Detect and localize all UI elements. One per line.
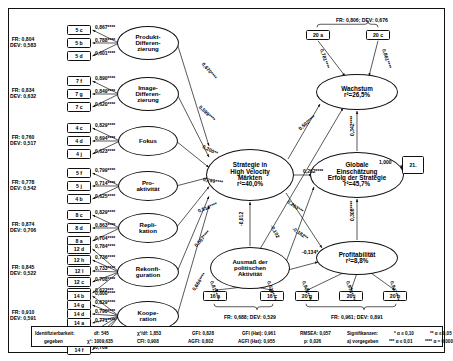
indicator-box-5d: 5 d — [67, 51, 91, 61]
indicator-label: 5 b — [75, 40, 83, 46]
stat-chi2df: χ²/df: 1,853 — [137, 330, 161, 337]
indicator-box-12l: 12 l — [67, 266, 91, 276]
construct-profitabilitaet: Profitabilitätr²=8,8% — [316, 241, 398, 275]
indicator-label: 4 b — [75, 196, 83, 202]
indicator-label: 12 h — [74, 257, 84, 263]
indicator-label: 16 c — [267, 293, 277, 299]
construct-label-fokus: Fokus — [139, 138, 157, 144]
stat-p: p: 0,026 — [304, 338, 321, 345]
indicator-box-5f: 5 f — [67, 168, 91, 178]
indicator-label: 8 c — [75, 212, 82, 218]
indicator-label: 20 a — [313, 32, 323, 38]
indicator-label: 5 c — [75, 27, 82, 33]
indicator-box-12h: 12 h — [67, 255, 91, 265]
stat-gfi: GFI: 0,828 — [192, 330, 214, 337]
indicator-label: 14 d — [74, 311, 84, 317]
construct-label-produkt: Produkt-Differen-zierung — [135, 34, 160, 53]
indicator-box-7c: 7 c — [67, 102, 91, 112]
stat-alpha-010: * α ≤ 0,10 — [394, 330, 414, 337]
indicator-label: 21. — [409, 162, 416, 168]
construct-label-wachstum: Wachstumr²=26,5% — [341, 86, 373, 99]
indicator-label: 20 h — [390, 293, 400, 299]
stat-identifizierbarkeit-2: gegeben — [44, 338, 63, 345]
indicator-box-12c: 12 c — [67, 277, 91, 287]
indicator-label: 8 d — [75, 225, 83, 231]
indicator-label: 20 c — [373, 32, 383, 38]
stat-vorgegeben: a) vorgegeben — [347, 338, 378, 345]
indicator-box-20g: 20 g — [295, 291, 319, 301]
stat-cfi: CFI: 0,908 — [137, 338, 159, 345]
indicator-box-7g: 7 g — [67, 89, 91, 99]
indicator-box-20h: 20 h — [383, 291, 407, 301]
construct-image: Image-Differen-zierung — [117, 77, 179, 111]
construct-proaktivitaet: Pro-aktivität — [118, 171, 178, 201]
construct-label-image: Image-Differen-zierung — [135, 85, 160, 104]
construct-global: GlobaleEinschätzungErfolg der Strategier… — [310, 152, 404, 198]
indicator-box-8c: 8 c — [67, 210, 91, 220]
construct-wachstum: Wachstumr²=26,5% — [316, 74, 398, 110]
indicator-label: 12 l — [75, 268, 84, 274]
indicator-box-16a: 16 a — [203, 291, 227, 301]
stat-alpha-0000: **** α = 0,000 — [425, 338, 453, 345]
indicator-label: 14 b — [74, 293, 84, 299]
stat-signifikanzen: Signifikanzen: — [347, 330, 378, 337]
indicator-box-12d: 12 d — [67, 244, 91, 254]
indicator-box-20c: 20 c — [366, 30, 390, 40]
indicator-label: 5 d — [75, 53, 83, 59]
indicator-label: 16 a — [210, 293, 220, 299]
sem-path-diagram: Produkt-Differen-zierungImage-Differen-z… — [0, 0, 453, 361]
construct-label-global: GlobaleEinschätzungErfolg der Strategier… — [328, 162, 386, 188]
construct-replikation: Repli-kation — [118, 213, 178, 243]
construct-label-proaktivitaet: Pro-aktivität — [136, 180, 159, 192]
stat-identifizierbarkeit-1: Identifizierbarkeit: — [35, 330, 75, 337]
indicator-box-8d: 8 d — [67, 223, 91, 233]
indicator-box-4j: 4 j — [67, 149, 91, 159]
indicator-label: 7 f — [76, 78, 82, 84]
construct-label-profitabilitaet: Profitabilitätr²=8,8% — [339, 252, 376, 265]
indicator-box-20i: 20 i — [339, 291, 363, 301]
indicator-box-4b: 4 b — [67, 194, 91, 204]
stat-agfi-hat: AGFI (Hat): 0,955 — [238, 338, 275, 345]
indicator-box-5c: 5 c — [67, 25, 91, 35]
indicator-label: 5 j — [76, 183, 82, 189]
construct-label-strategie: Strategie inHigh VelocityMärktenr²=40,0% — [230, 162, 270, 188]
construct-label-rekonfiguration: Rekonfi-guration — [136, 266, 160, 278]
stat-gfi-hat: GFI (Hat): 0,961 — [242, 330, 276, 337]
indicator-box-4d: 4 d — [67, 136, 91, 146]
indicator-box-21: 21. — [402, 156, 424, 174]
construct-fokus: Fokus — [118, 126, 178, 156]
indicator-box-20a: 20 a — [306, 30, 330, 40]
indicator-label: 14 f — [75, 347, 84, 353]
indicator-label: 20 i — [347, 293, 356, 299]
indicator-box-7f: 7 f — [67, 76, 91, 86]
construct-label-kooperation: Koope-ration — [138, 310, 159, 322]
stat-rmsea: RMSEA: 0,057 — [300, 330, 331, 337]
indicator-label: 12 c — [74, 279, 84, 285]
indicator-label: 7 g — [75, 91, 83, 97]
indicator-label: 8 a — [75, 238, 82, 244]
construct-strategie: Strategie inHigh VelocityMärktenr²=40,0% — [206, 149, 294, 201]
construct-politisch: Ausmaß derpolitischenAktivität — [210, 247, 290, 289]
stat-alpha-005: ** α ≤ 0,05 — [430, 330, 452, 337]
indicator-label: 20 g — [302, 293, 312, 299]
indicator-label: 12 d — [74, 246, 84, 252]
stat-chi2: χ²: 1009,635 — [87, 338, 113, 345]
indicator-label: 4 c — [75, 125, 82, 131]
indicator-label: 14 g — [74, 302, 84, 308]
construct-rekonfiguration: Rekonfi-guration — [117, 257, 179, 287]
indicator-box-4c: 4 c — [67, 123, 91, 133]
construct-produkt: Produkt-Differen-zierung — [117, 26, 179, 60]
indicator-label: 7 c — [75, 104, 82, 110]
indicator-label: 5 f — [76, 170, 82, 176]
indicator-label: 4 d — [75, 138, 83, 144]
fit-statistics-panel: Identifizierbarkeit: gegeben df: 545 χ²:… — [31, 326, 443, 347]
construct-label-replikation: Repli-kation — [139, 222, 157, 234]
stat-df: df: 545 — [94, 330, 109, 337]
stat-agfi: AGFI: 0,802 — [188, 338, 213, 345]
indicator-box-5j: 5 j — [67, 181, 91, 191]
indicator-box-5b: 5 b — [67, 38, 91, 48]
indicator-label: 4 j — [76, 151, 82, 157]
stat-alpha-001: *** α ≤ 0,01 — [389, 338, 412, 345]
indicator-box-16c: 16 c — [260, 291, 284, 301]
construct-label-politisch: Ausmaß derpolitischenAktivität — [232, 259, 267, 278]
